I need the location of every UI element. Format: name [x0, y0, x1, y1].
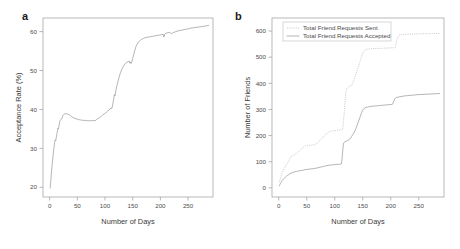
b-x-tick-label: 50 [303, 202, 310, 209]
a-y-tick-label: 30 [30, 145, 37, 152]
panel-b-x-axis: 050100150200250 [277, 197, 425, 209]
b-x-tick-label: 0 [277, 202, 281, 209]
panel-a-y-axis-title: Acceptance Rate (%) [14, 73, 23, 143]
panel-b-plot-frame [272, 18, 444, 197]
b-y-tick-label: 600 [256, 27, 267, 34]
panel-a-chart: 050100150200250 2030405060 Number of Day… [0, 0, 230, 249]
panel-a-x-axis: 050100150200250 [48, 197, 194, 209]
a-x-tick-label: 100 [100, 202, 111, 209]
b-y-tick-label: 400 [256, 80, 267, 87]
b-series-path [279, 94, 439, 186]
panel-a-series-group [50, 25, 208, 188]
panel-b: b 050100150200250 0100200300400500600 To… [230, 0, 460, 249]
b-x-tick-label: 200 [386, 202, 397, 209]
panel-a-x-axis-title: Number of Days [101, 217, 155, 226]
b-legend-label: Total Friend Requests Accepted [303, 32, 391, 39]
a-x-tick-label: 0 [48, 202, 52, 209]
b-x-tick-label: 100 [330, 202, 341, 209]
b-y-tick-label: 0 [263, 184, 267, 191]
b-y-tick-label: 200 [256, 132, 267, 139]
panel-a-label: a [22, 10, 28, 22]
panel-a-plot-frame [43, 18, 213, 197]
panel-b-y-axis-title: Number of Friends [243, 77, 252, 139]
b-y-tick-label: 500 [256, 53, 267, 60]
b-legend-label: Total Friend Requests Sent [303, 24, 378, 31]
a-x-tick-label: 150 [128, 202, 139, 209]
a-y-tick-label: 20 [30, 183, 37, 190]
panel-b-label: b [235, 10, 242, 22]
a-y-tick-label: 40 [30, 106, 37, 113]
panel-b-chart: 050100150200250 0100200300400500600 Tota… [230, 0, 460, 249]
a-series-path [50, 25, 208, 188]
panel-b-x-axis-title: Number of Days [331, 217, 385, 226]
panel-a: a 050100150200250 2030405060 Number of D… [0, 0, 230, 249]
a-y-tick-label: 60 [30, 28, 37, 35]
figure-container: a 050100150200250 2030405060 Number of D… [0, 0, 460, 249]
a-x-tick-label: 50 [74, 202, 81, 209]
b-y-tick-label: 100 [256, 158, 267, 165]
a-x-tick-label: 200 [155, 202, 166, 209]
b-x-tick-label: 150 [358, 202, 369, 209]
panel-b-y-axis: 0100200300400500600 [256, 27, 272, 191]
a-x-tick-label: 250 [183, 202, 194, 209]
panel-b-series-group [279, 33, 439, 185]
b-y-tick-label: 300 [256, 106, 267, 113]
b-series-path [279, 33, 439, 182]
panel-b-legend: Total Friend Requests SentTotal Friend R… [283, 22, 391, 41]
a-y-tick-label: 50 [30, 67, 37, 74]
b-x-tick-label: 250 [414, 202, 425, 209]
panel-a-y-axis: 2030405060 [30, 28, 43, 191]
